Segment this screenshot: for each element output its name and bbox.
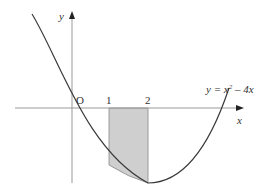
graph-canvas	[0, 0, 262, 193]
graph-figure: y x O 1 2 y = x2 – 4x	[0, 0, 262, 193]
shaded-area	[109, 108, 148, 183]
y-axis-label: y	[59, 11, 64, 22]
function-label-prefix: y = x	[206, 83, 229, 95]
y-axis-arrow-icon	[69, 11, 75, 19]
x-axis-label: x	[237, 115, 242, 126]
origin-label: O	[76, 95, 84, 106]
tick-label-1: 1	[106, 95, 112, 106]
function-label-suffix: – 4x	[232, 83, 253, 95]
tick-label-2: 2	[145, 95, 151, 106]
function-label: y = x2 – 4x	[206, 84, 254, 95]
x-axis-arrow-icon	[236, 105, 244, 111]
